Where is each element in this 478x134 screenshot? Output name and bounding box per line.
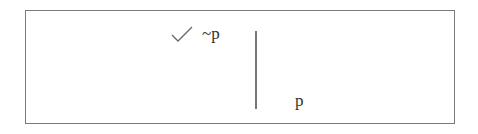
node-formula-p: p: [295, 92, 304, 109]
tree-branch-line: [255, 31, 257, 109]
node-formula-negated-p: ~p: [202, 25, 220, 42]
check-icon: [171, 26, 193, 44]
diagram-frame: [25, 10, 455, 124]
